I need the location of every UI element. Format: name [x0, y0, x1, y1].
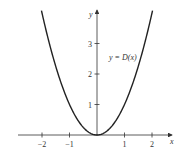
x-tick-label: 1 — [123, 140, 127, 149]
curve-label: y = D(x) — [108, 53, 137, 62]
x-tick-label: 2 — [150, 140, 154, 149]
y-tick-label: 3 — [88, 40, 92, 49]
x-tick-label: −2 — [38, 140, 47, 149]
y-tick-label: 1 — [88, 101, 92, 110]
x-tick-label: −1 — [65, 140, 74, 149]
chart-canvas: −2−112 123 x y y = D(x) — [0, 0, 175, 161]
y-axis-label: y — [88, 10, 93, 19]
y-ticks: 123 — [88, 40, 100, 110]
x-axis-label: x — [169, 137, 174, 146]
y-tick-label: 2 — [88, 70, 92, 79]
